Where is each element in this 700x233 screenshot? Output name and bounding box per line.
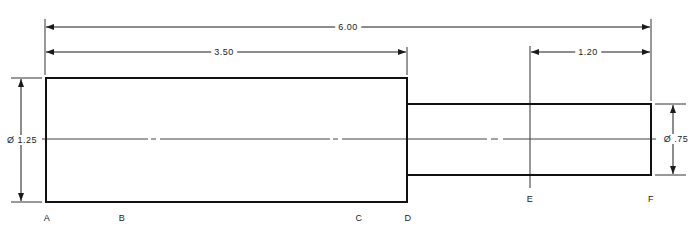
- point-label-e: E: [527, 194, 534, 204]
- dim-overall-length: 6.00: [335, 22, 361, 32]
- point-label-c: C: [356, 213, 363, 223]
- point-label-b: B: [119, 213, 126, 223]
- large-section: [46, 78, 407, 202]
- point-label-f: F: [648, 194, 654, 204]
- point-label-d: D: [405, 213, 412, 223]
- dim-end-length: 1.20: [575, 47, 601, 57]
- shaft-drawing: [0, 0, 700, 233]
- shaft-outline: [46, 78, 651, 202]
- dim-large-section-length: 3.50: [211, 47, 237, 57]
- dim-small-diameter: Ø .75: [663, 134, 690, 144]
- dim-large-diameter: Ø 1.25: [6, 135, 38, 145]
- point-label-a: A: [44, 213, 51, 223]
